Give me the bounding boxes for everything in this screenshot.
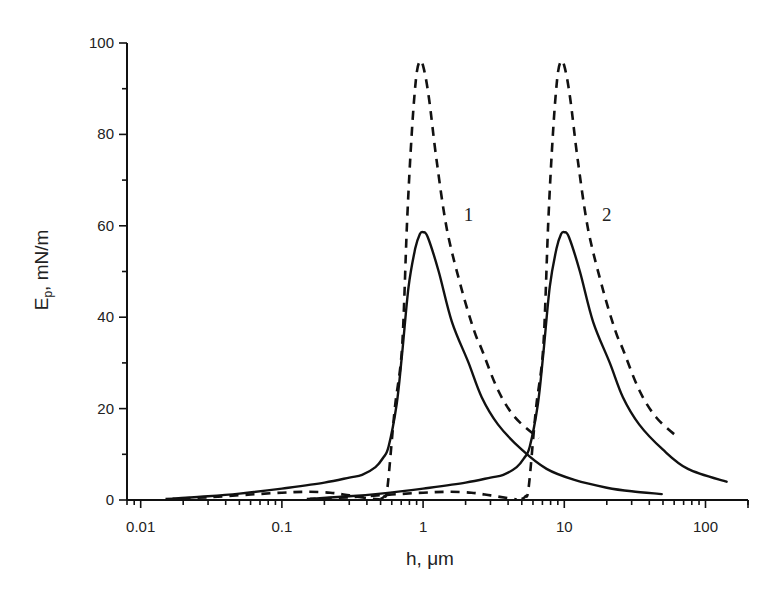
x-axis-title: h, μm [406, 548, 454, 569]
curve-label-1: 1 [464, 204, 474, 225]
x-tick-label: 1 [419, 518, 427, 535]
series-line-2 [381, 61, 539, 499]
x-tick-label: 0.01 [126, 518, 155, 535]
y-tick-label: 0 [106, 491, 114, 508]
y-axis-title-units: , mN/m [31, 230, 52, 291]
curve-label-2: 2 [602, 204, 612, 225]
ticks: 0204060801000.010.1110100 [89, 34, 748, 535]
series-line-5 [522, 61, 679, 499]
y-axis-title: Ep, mN/m [31, 230, 55, 311]
x-tick-label: 10 [556, 518, 573, 535]
y-tick-label: 80 [97, 125, 114, 142]
y-tick-label: 40 [97, 308, 114, 325]
chart: 0204060801000.010.1110100 12 h, μm Ep, m… [0, 0, 783, 597]
series-group [166, 61, 727, 500]
y-tick-label: 60 [97, 217, 114, 234]
x-tick-label: 100 [693, 518, 718, 535]
series-line-4 [311, 232, 727, 499]
annotations: 12 [464, 204, 612, 225]
y-axis-title-main: E [31, 298, 52, 311]
x-tick-label: 0.1 [271, 518, 292, 535]
y-tick-label: 20 [97, 400, 114, 417]
series-line-1 [173, 232, 662, 499]
y-tick-label: 100 [89, 34, 114, 51]
series-line-6 [307, 492, 517, 500]
